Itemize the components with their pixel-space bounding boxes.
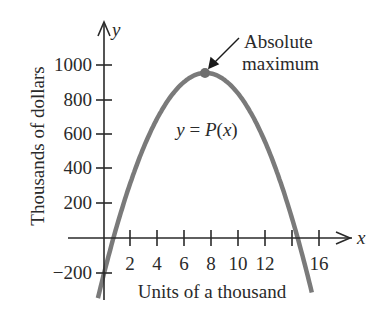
y-tick-600: 600 — [64, 123, 93, 144]
absolute-maximum-point — [200, 68, 210, 78]
x-axis-name: x — [356, 227, 366, 248]
annotation-line-1: Absolute — [244, 31, 313, 52]
annotation-line-2: maximum — [242, 53, 319, 74]
x-tick-16: 16 — [310, 253, 329, 274]
y-tick-200: 200 — [64, 192, 93, 213]
y-axis-name: y — [110, 19, 121, 40]
x-tick-10: 10 — [229, 253, 248, 274]
x-axis-title: Units of a thousand — [138, 281, 287, 302]
chart-canvas: 1000 800 600 400 200 −200 2 4 6 8 10 12 … — [0, 0, 383, 325]
x-tick-4: 4 — [152, 253, 162, 274]
y-tick-neg200: −200 — [53, 262, 92, 283]
x-tick-2: 2 — [125, 253, 135, 274]
x-tick-12: 12 — [256, 253, 275, 274]
x-tick-6: 6 — [179, 253, 189, 274]
annotation-arrow — [209, 38, 239, 68]
y-tick-800: 800 — [64, 89, 93, 110]
curve-label: y = P(x) — [174, 119, 237, 141]
y-tick-1000: 1000 — [54, 54, 92, 75]
x-tick-8: 8 — [206, 253, 216, 274]
y-tick-400: 400 — [64, 157, 93, 178]
y-axis-title: Thousands of dollars — [27, 66, 48, 225]
